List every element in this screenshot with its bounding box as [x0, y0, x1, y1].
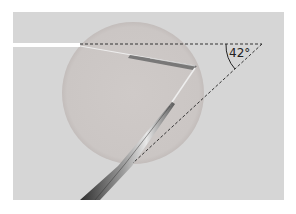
droplet-diagram [0, 0, 296, 214]
angle-label: 42° [229, 46, 250, 60]
incident-light-beam [13, 43, 80, 47]
droplet [62, 22, 204, 164]
